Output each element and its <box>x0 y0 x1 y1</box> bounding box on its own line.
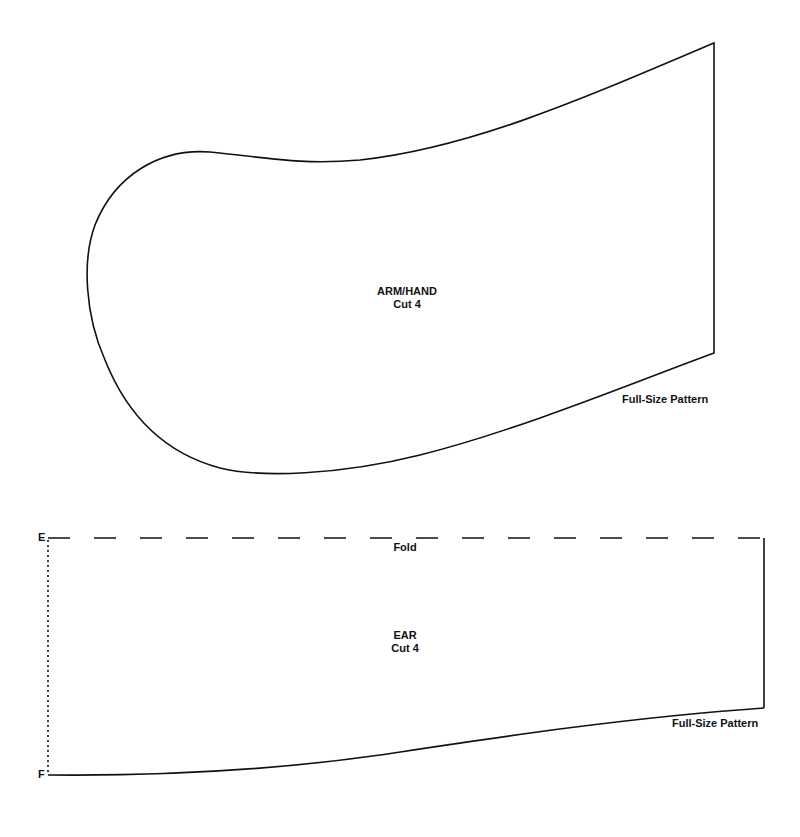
arm-hand-outline <box>87 43 714 474</box>
arm-hand-name: ARM/HAND <box>352 285 462 298</box>
ear-title: EAR Cut 4 <box>370 629 440 655</box>
ear-fold-label: Fold <box>390 541 420 554</box>
pattern-canvas <box>0 0 800 837</box>
ear-name: EAR <box>370 629 440 642</box>
arm-hand-full-size-note: Full-Size Pattern <box>622 393 708 406</box>
arm-hand-title: ARM/HAND Cut 4 <box>352 285 462 311</box>
ear-bottom-edge <box>48 708 764 775</box>
ear-cut: Cut 4 <box>370 642 440 655</box>
arm-hand-cut: Cut 4 <box>352 298 462 311</box>
ear-point-e: E <box>38 531 45 543</box>
ear-full-size-note: Full-Size Pattern <box>672 717 758 730</box>
ear-point-f: F <box>38 768 45 780</box>
